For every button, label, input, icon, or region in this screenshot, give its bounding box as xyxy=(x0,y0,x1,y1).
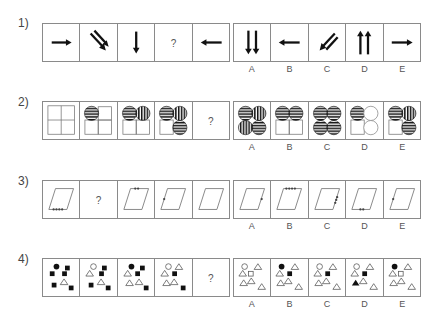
option-d[interactable] xyxy=(346,181,383,218)
parallelogram-one-dot-left xyxy=(155,181,191,218)
sequence-cell-unknown: ? xyxy=(155,24,192,61)
option-b[interactable] xyxy=(271,102,308,139)
one-circle-figure xyxy=(80,102,116,139)
three-circles-figure xyxy=(384,102,420,139)
sequence-cell xyxy=(118,102,155,139)
double-arrow-down-left-icon xyxy=(309,24,345,61)
option-b[interactable] xyxy=(271,259,308,296)
parallelogram-four-dots-top xyxy=(271,181,307,218)
option-label-c: C xyxy=(308,142,346,152)
sequence-cell-unknown: ? xyxy=(193,259,229,296)
shapes-option-d xyxy=(346,259,382,296)
four-circles-mixed-figure xyxy=(234,102,270,139)
empty-circles-figure xyxy=(346,102,382,139)
option-e[interactable] xyxy=(384,181,420,218)
parallelogram-one-dot-left xyxy=(384,181,420,218)
option-label-c: C xyxy=(308,221,346,231)
option-c[interactable] xyxy=(309,259,346,296)
option-d[interactable] xyxy=(346,259,383,296)
option-e[interactable] xyxy=(384,259,420,296)
option-a[interactable] xyxy=(234,102,271,139)
three-circles-figure xyxy=(155,102,191,139)
double-arrow-up-icon xyxy=(346,24,382,61)
parallelogram-two-dots-top xyxy=(118,181,154,218)
option-label-b: B xyxy=(271,299,309,309)
sequence-cell xyxy=(193,24,229,61)
option-e[interactable] xyxy=(384,24,420,61)
question-3-option-labels: A B C D E xyxy=(233,221,421,231)
option-label-a: A xyxy=(233,221,271,231)
option-label-d: D xyxy=(346,142,384,152)
shapes-figure-3 xyxy=(118,259,154,296)
sequence-cell xyxy=(80,102,117,139)
question-1-sequence: ? xyxy=(42,23,230,62)
shapes-option-a xyxy=(234,259,270,296)
option-c[interactable] xyxy=(309,181,346,218)
two-horizontal-circles-figure xyxy=(271,102,307,139)
option-label-a: A xyxy=(233,142,271,152)
question-number-4: 4) xyxy=(18,252,29,266)
sequence-cell-unknown: ? xyxy=(193,102,229,139)
question-4-option-labels: A B C D E xyxy=(233,299,421,309)
parallelogram-two-dots-bottom xyxy=(346,181,382,218)
four-squares-figure xyxy=(43,102,79,139)
sequence-cell xyxy=(155,102,192,139)
question-2-options xyxy=(233,101,421,140)
option-label-b: B xyxy=(271,142,309,152)
question-2-sequence: ? xyxy=(42,101,230,140)
option-label-d: D xyxy=(346,221,384,231)
shapes-option-e xyxy=(384,259,420,296)
option-label-d: D xyxy=(346,64,384,74)
option-b[interactable] xyxy=(271,181,308,218)
sequence-cell xyxy=(43,102,80,139)
option-d[interactable] xyxy=(346,102,383,139)
question-3-options xyxy=(233,180,421,219)
option-c[interactable] xyxy=(309,24,346,61)
sequence-cell xyxy=(80,259,117,296)
question-3-sequence: ? xyxy=(42,180,230,219)
sequence-cell xyxy=(43,181,80,218)
option-label-d: D xyxy=(346,299,384,309)
option-c[interactable] xyxy=(309,102,346,139)
option-label-c: C xyxy=(308,299,346,309)
sequence-cell-unknown: ? xyxy=(80,181,117,218)
double-arrow-down-right-icon xyxy=(80,24,116,61)
question-4-sequence: ? xyxy=(42,258,230,297)
arrow-right-icon xyxy=(43,24,79,61)
two-circles-figure xyxy=(118,102,154,139)
parallelogram-one-dot-right xyxy=(234,181,270,218)
shapes-figure-1 xyxy=(43,259,79,296)
question-mark: ? xyxy=(80,194,116,205)
parallelogram-no-dots xyxy=(193,181,229,218)
question-number-2: 2) xyxy=(18,95,29,109)
four-horizontal-circles-figure xyxy=(309,102,345,139)
question-number-3: 3) xyxy=(18,174,29,188)
shapes-option-c xyxy=(309,259,345,296)
arrow-left-icon xyxy=(193,24,229,61)
parallelogram-three-dots-right xyxy=(309,181,345,218)
sequence-cell xyxy=(155,181,192,218)
sequence-cell xyxy=(118,259,155,296)
double-arrow-down-icon xyxy=(234,24,270,61)
sequence-cell xyxy=(118,181,155,218)
question-4-options xyxy=(233,258,421,297)
option-b[interactable] xyxy=(271,24,308,61)
parallelogram-four-dots-bottom xyxy=(43,181,79,218)
option-a[interactable] xyxy=(234,181,271,218)
option-label-c: C xyxy=(308,64,346,74)
arrow-down-icon xyxy=(118,24,154,61)
option-d[interactable] xyxy=(346,24,383,61)
sequence-cell xyxy=(155,259,192,296)
question-mark: ? xyxy=(155,37,191,48)
question-2-option-labels: A B C D E xyxy=(233,142,421,152)
shapes-figure-4 xyxy=(155,259,191,296)
option-label-e: E xyxy=(383,221,421,231)
shapes-option-b xyxy=(271,259,307,296)
option-e[interactable] xyxy=(384,102,420,139)
option-label-e: E xyxy=(383,64,421,74)
option-a[interactable] xyxy=(234,259,271,296)
option-a[interactable] xyxy=(234,24,271,61)
shapes-figure-2 xyxy=(80,259,116,296)
question-mark: ? xyxy=(193,272,229,283)
sequence-cell xyxy=(80,24,117,61)
